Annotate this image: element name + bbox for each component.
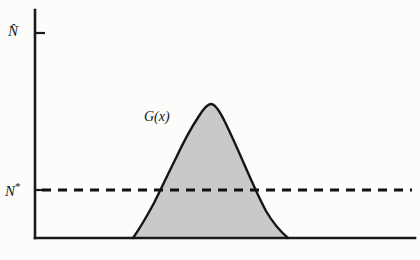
curve-fill-region — [133, 104, 288, 238]
n-star-base: N — [5, 183, 15, 199]
y-axis-label-n-star: N* — [5, 181, 21, 199]
n-star-superscript: * — [15, 180, 21, 192]
plot-canvas — [0, 0, 420, 260]
y-axis-label-n-hat: N̂ — [8, 24, 18, 39]
curve-label-gx: G(x) — [144, 110, 170, 124]
figure-container: N̂ N* G(x) — [0, 0, 420, 260]
